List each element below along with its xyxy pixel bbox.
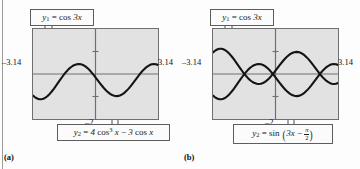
panel-a: –3.14 3.14 2 –2 y1 = cos 3x y2 = 4 cos3 … [0,0,180,169]
figure-root: –3.14 3.14 2 –2 y1 = cos 3x y2 = 4 cos3 … [0,0,360,169]
panel-b: –3.14 3.14 2 –2 y1 = cos 3x y2 = sin (3x… [180,0,360,169]
y1-callout-a: y1 = cos 3x [30,9,94,26]
y1-callout-b: y1 = cos 3x [210,9,274,26]
x-min-label-a: –3.14 [2,57,21,67]
y2-callout-a: y2 = 4 cos3 x − 3 cos x [57,124,170,141]
graph-b-canvas [213,29,338,119]
y2-callout-b-text: y2 = sin (3x − π2) [252,127,314,142]
caption-a: (a) [4,152,14,162]
graph-a [32,28,159,120]
x-max-label-a: 3.14 [158,57,173,67]
y2-callout-a-text: y2 = 4 cos3 x − 3 cos x [74,127,154,138]
graph-a-canvas [33,29,158,119]
x-max-label-b: 3.14 [338,57,353,67]
y1-callout-b-text: y1 = cos 3x [222,13,262,23]
y1-callout-a-text: y1 = cos 3x [42,13,82,23]
x-min-label-b: –3.14 [182,57,201,67]
caption-b: (b) [184,152,194,162]
graph-b [212,28,339,120]
y2-callout-b: y2 = sin (3x − π2) [233,124,333,144]
